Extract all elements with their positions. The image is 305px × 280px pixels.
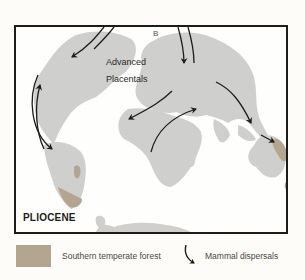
forest-swatch-icon: [16, 245, 51, 267]
taxon-label-line1: Advanced: [106, 54, 148, 71]
landmass-antarctica: [96, 223, 196, 234]
epoch-label: PLIOCENE: [23, 212, 76, 223]
landmass-africa: [118, 108, 201, 187]
paleogeographic-map: B Advanced Placentals PLIOCENE: [14, 25, 288, 234]
legend-dispersal-label: Mammal dispersals: [205, 251, 278, 261]
landmass-antarctica-west: [96, 216, 106, 229]
panel-letter: B: [153, 29, 158, 38]
map-canvas: [16, 27, 288, 234]
curved-arrow-icon: [182, 243, 200, 269]
forest-patch-new-zealand: [285, 182, 288, 189]
map-legend: Southern temperate forest Mammal dispers…: [16, 245, 305, 275]
taxon-label: Advanced Placentals: [106, 54, 148, 88]
legend-forest-label: Southern temperate forest: [62, 251, 161, 261]
taxon-label-line2: Placentals: [106, 71, 148, 88]
